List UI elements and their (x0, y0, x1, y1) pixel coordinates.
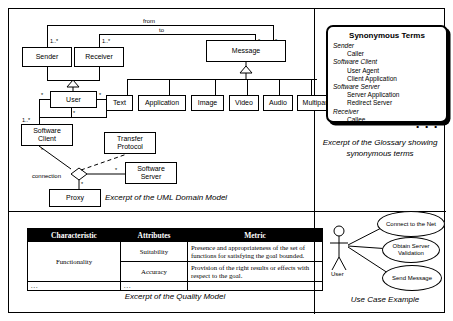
figure-frame: from to 1..* 1..* * * Sender Receiver Me… (8, 8, 445, 313)
actor-leg-right (339, 257, 346, 270)
figure-page: from to 1..* 1..* * * Sender Receiver Me… (0, 0, 453, 321)
actor-label-user: User (331, 271, 344, 278)
use-case-connect-to-net: Connect to the Net (377, 211, 445, 237)
use-case-send-message: Send Message (382, 265, 442, 291)
actor-head-icon (334, 226, 344, 236)
actor-leg-left (332, 257, 339, 270)
use-case-obtain-server-validation: Obtain Server Validation (382, 237, 440, 263)
caption-use-case: Use Case Example (325, 295, 445, 304)
use-case-actor-svg (9, 9, 446, 314)
